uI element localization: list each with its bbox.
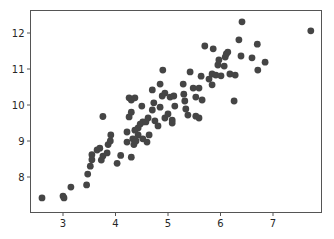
data-point	[83, 182, 90, 189]
x-tick-label: 4	[112, 218, 118, 229]
data-point	[187, 69, 194, 76]
y-tick-label: 10	[12, 100, 25, 111]
data-point	[224, 49, 231, 56]
x-axis: 34567	[60, 213, 276, 229]
data-point	[182, 106, 189, 113]
data-point	[124, 129, 131, 136]
data-point	[190, 85, 197, 92]
data-point	[196, 85, 203, 92]
data-point	[196, 115, 203, 122]
data-point	[104, 150, 111, 157]
data-point	[181, 98, 188, 105]
data-point	[262, 59, 269, 66]
plot-frame	[31, 11, 322, 213]
data-point	[114, 160, 121, 167]
data-point	[221, 63, 228, 70]
data-point	[117, 152, 124, 159]
data-point	[169, 120, 176, 127]
data-point	[149, 87, 156, 94]
data-point	[254, 41, 261, 48]
data-point	[124, 139, 131, 146]
data-point	[107, 132, 114, 139]
data-point	[171, 103, 178, 110]
y-tick-label: 12	[12, 28, 25, 39]
x-tick-label: 7	[270, 218, 276, 229]
data-point	[100, 113, 107, 120]
data-point	[180, 91, 187, 98]
data-point	[216, 57, 223, 64]
x-tick-label: 5	[165, 218, 171, 229]
data-point	[107, 138, 114, 145]
y-tick-label: 11	[12, 64, 25, 75]
data-point	[89, 151, 96, 158]
data-point	[209, 81, 216, 88]
data-point	[238, 53, 245, 60]
data-point	[128, 109, 135, 116]
y-axis: 89101112	[12, 28, 31, 183]
data-point	[210, 45, 217, 52]
data-point	[170, 93, 177, 100]
data-point	[39, 195, 46, 202]
data-point	[149, 107, 156, 114]
data-point	[145, 115, 152, 122]
data-point	[249, 54, 256, 61]
data-point	[132, 94, 139, 101]
data-point	[307, 27, 314, 34]
data-point	[84, 171, 91, 178]
x-tick-label: 3	[60, 218, 66, 229]
data-point	[155, 123, 162, 130]
data-point	[192, 94, 199, 101]
data-point	[128, 154, 135, 161]
data-point	[231, 98, 238, 105]
data-point	[254, 67, 261, 74]
data-point	[239, 18, 246, 25]
data-point	[157, 81, 164, 88]
data-point	[87, 163, 94, 170]
data-point	[144, 139, 151, 146]
x-tick-label: 6	[217, 218, 223, 229]
data-point	[159, 67, 166, 74]
data-point	[150, 99, 157, 106]
data-point	[96, 145, 103, 152]
data-point	[157, 104, 164, 111]
data-point	[165, 111, 172, 118]
data-point	[180, 81, 187, 88]
data-point	[138, 103, 145, 110]
data-point	[232, 72, 239, 79]
data-point	[146, 132, 153, 139]
data-point	[185, 112, 192, 119]
data-points	[39, 18, 315, 201]
y-tick-label: 9	[18, 136, 24, 147]
data-point	[61, 195, 68, 202]
data-point	[133, 138, 140, 145]
data-point	[236, 36, 243, 43]
data-point	[198, 73, 205, 80]
data-point	[68, 184, 75, 191]
data-point	[201, 43, 208, 50]
y-tick-label: 8	[18, 172, 24, 183]
data-point	[199, 97, 206, 104]
data-point	[218, 72, 225, 79]
scatter-chart: 34567 89101112	[0, 0, 334, 239]
